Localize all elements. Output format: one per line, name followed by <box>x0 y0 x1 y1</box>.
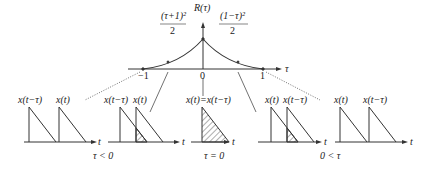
panel3-axis: t <box>232 136 235 147</box>
diagram-canvas <box>0 0 428 169</box>
left-formula-num: (τ+1)² <box>161 10 186 21</box>
panel5-label-shifted: x(t−τ) <box>363 94 387 105</box>
condition-positive: 0 < τ <box>320 150 340 161</box>
left-formula-den: 2 <box>170 25 175 36</box>
tau-axis-arrow-icon <box>276 67 282 71</box>
right-formula-num: (1−τ)² <box>220 10 245 21</box>
panel2-label-x: x(t) <box>133 94 147 105</box>
condition-zero: τ = 0 <box>204 150 224 161</box>
panel3-label: x(t)=x(t−τ) <box>186 94 231 105</box>
panel1-label-shifted: x(t−τ) <box>18 94 42 105</box>
tau-axis-label: τ <box>285 63 289 74</box>
panel5-axis: t <box>410 136 413 147</box>
condition-negative: τ < 0 <box>93 150 113 161</box>
tick-minus-one: −1 <box>138 70 149 81</box>
r-axis-arrow-icon <box>201 22 205 28</box>
right-formula-den: 2 <box>230 25 235 36</box>
panel4-label-shifted: x(t−τ) <box>283 94 307 105</box>
panel2-axis: t <box>182 136 185 147</box>
panel2-label-shifted: x(t−τ) <box>104 94 128 105</box>
panel1-axis: t <box>98 136 101 147</box>
panel5-label-x: x(t) <box>334 94 348 105</box>
panel1-label-x: x(t) <box>56 94 70 105</box>
panel4-axis: t <box>324 136 327 147</box>
r-tau-label: R(τ) <box>194 2 210 13</box>
tick-zero: 0 <box>200 70 205 81</box>
panel4-label-x: x(t) <box>265 94 279 105</box>
tick-one: 1 <box>260 70 265 81</box>
